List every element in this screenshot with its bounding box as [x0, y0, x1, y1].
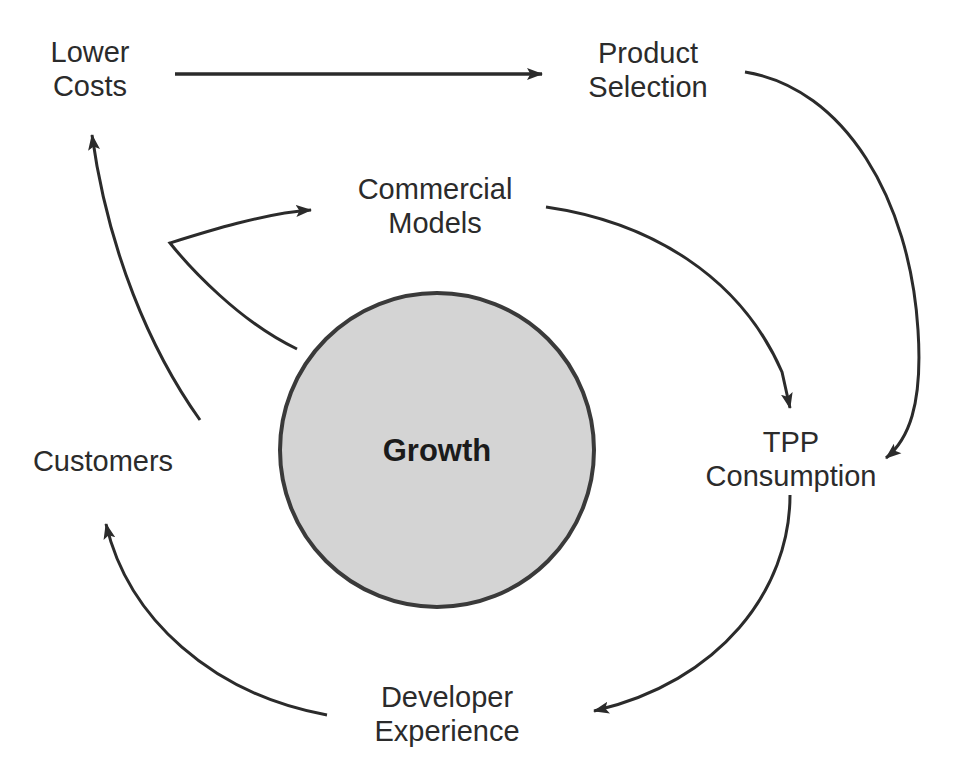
edge-growth-to-commercial-models: [170, 210, 311, 349]
node-label-product-selection: Product Selection: [588, 36, 707, 104]
edge-growth-to-lower-costs: [92, 135, 200, 420]
edge-commercial-models-to-tpp-consumption: [546, 207, 790, 408]
edge-developer-experience-to-customers: [106, 524, 327, 715]
diagram-graphics: [0, 0, 977, 774]
node-label-commercial-models: Commercial Models: [358, 172, 513, 240]
growth-center-label: Growth: [383, 434, 492, 468]
node-label-customers: Customers: [33, 444, 173, 478]
node-label-tpp-consumption: TPP Consumption: [706, 425, 877, 493]
diagram-canvas: Lower Costs Product Selection Commercial…: [0, 0, 977, 774]
edge-tpp-consumption-to-developer-experience: [594, 495, 790, 711]
node-label-developer-experience: Developer Experience: [374, 680, 519, 748]
node-label-lower-costs: Lower Costs: [51, 35, 130, 103]
edge-product-selection-to-tpp-consumption: [745, 72, 919, 458]
